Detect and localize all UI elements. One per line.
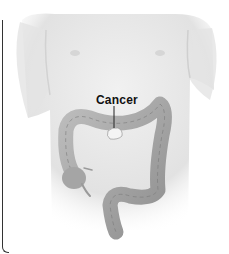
tumor (107, 128, 122, 139)
cancer-label: Cancer (96, 93, 138, 107)
illustration-frame: Cancer (0, 0, 229, 254)
colon-illustration (0, 0, 229, 254)
